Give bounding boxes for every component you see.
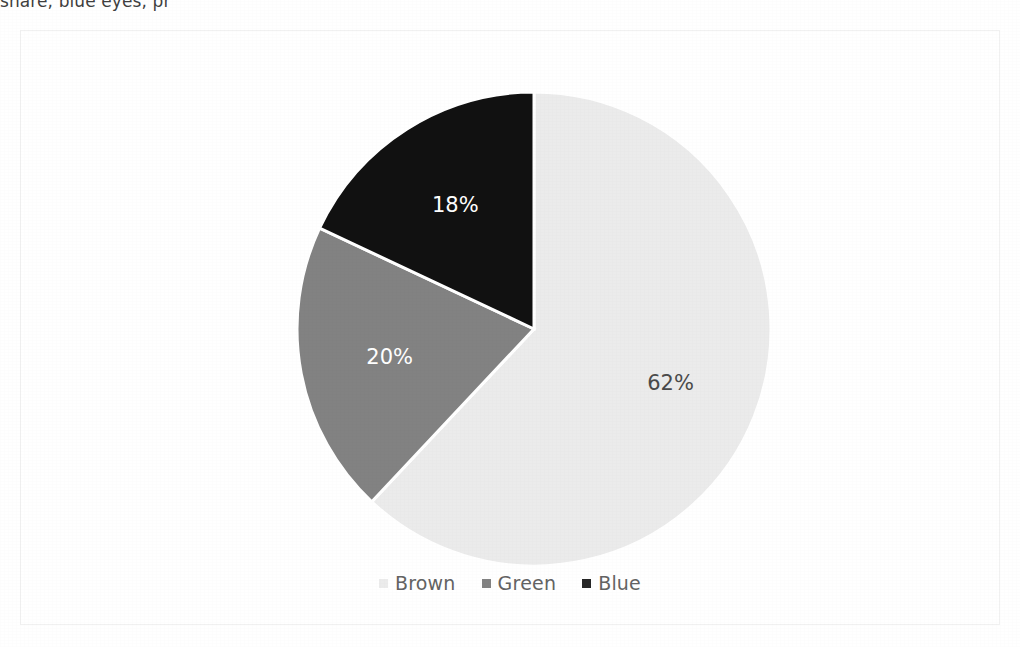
chart-object-frame[interactable]: 62%20%18% Brown Green Blue — [20, 30, 1000, 625]
legend-swatch-brown — [379, 579, 388, 588]
pie-slices-group — [297, 92, 771, 566]
legend-label-green: Green — [498, 574, 557, 593]
chart-legend: Brown Green Blue — [21, 574, 999, 593]
legend-swatch-blue — [582, 579, 591, 588]
pie-chart-plot-area: 62%20%18% — [21, 31, 999, 624]
cropped-document-header-text: share, blue eyes, pr — [0, 0, 420, 13]
pie-data-label-brown: 62% — [647, 371, 694, 395]
legend-item-blue[interactable]: Blue — [582, 574, 641, 593]
legend-swatch-green — [482, 579, 491, 588]
legend-item-brown[interactable]: Brown — [379, 574, 456, 593]
legend-label-blue: Blue — [598, 574, 641, 593]
pie-data-label-blue: 18% — [432, 193, 479, 217]
legend-item-green[interactable]: Green — [482, 574, 557, 593]
legend-label-brown: Brown — [395, 574, 456, 593]
pie-chart-svg: 62%20%18% — [21, 31, 1001, 626]
pie-data-label-green: 20% — [366, 345, 413, 369]
